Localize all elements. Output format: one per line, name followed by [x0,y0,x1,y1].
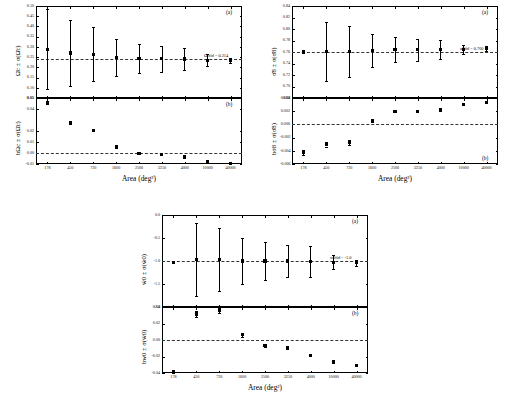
y-tick-mark [162,324,165,325]
omega_c_estimate-errorbar-cap [92,27,95,28]
x-tick-mark [418,6,419,9]
x-tick-label: 2500 [386,166,404,170]
Omega_c panel group: 0.500.450.400.350.300.250.200.150.100.05… [6,6,248,188]
x-axis-label: Area (deg²) [292,174,498,183]
w_0_estimate-errorbar-cap [309,277,312,278]
y-tick-mark [36,6,39,7]
omega_c_estimate-fiducial-annotation: Ωcfid = 0.214 [204,53,228,58]
omega_c_bias-ytick: 0.02 [24,129,34,133]
omega_c_estimate-ytick: 0.20 [24,65,34,69]
x-tick-mark [349,98,350,101]
x-tick-mark [326,6,327,9]
sigma_8_estimate-ytick: 0.84 [280,4,290,8]
y-tick-mark [292,87,295,88]
w_0 panel group: 0.0-0.5-1.0-1.5-2.0(a)ŵ0 ± σ(ŵ0)w0fid = … [130,215,374,397]
y-tick-mark [292,41,295,42]
x-tick-mark [418,162,419,165]
sigma_8_estimate-errorbar-cap [325,81,328,82]
x-tick-mark [70,6,71,9]
sigma_8_bias-errorbar-cap [348,145,351,146]
w_0_bias-errorbar-cap [195,317,198,318]
x-tick-mark [395,6,396,9]
sigma_8_bias-ytick: 0.000 [280,122,290,126]
y-tick-mark [36,164,39,165]
y-tick-mark [36,88,39,89]
w_0_bias-data-point [241,333,244,336]
w_0_estimate-errorbar-cap [332,269,335,270]
omega_c_estimate-panel-label: (a) [226,9,232,15]
x-tick-mark [173,215,174,218]
x-tick-mark [93,98,94,101]
y-tick-mark [240,142,243,143]
sigma_8_estimate-ytick: 0.70 [280,84,290,88]
sigma_8_estimate-errorbar-cap [348,26,351,27]
omega_c_estimate-ytick: 0.50 [24,4,34,8]
sigma_8_estimate-ytick: 0.78 [280,38,290,42]
x-tick-mark [326,98,327,101]
y-tick-mark [496,87,499,88]
y-tick-mark [162,238,165,239]
sigma_8_estimate-errorbar-cap [485,51,488,52]
y-tick-mark [240,16,243,17]
x-tick-mark [334,215,335,218]
y-tick-mark [240,131,243,132]
x-tick-label: 4000 [432,166,450,170]
sigma_8_estimate-data-point [439,48,442,51]
sigma_8_bias-panel-label: (b) [482,155,488,161]
w_0_estimate-errorbar-cap [241,238,244,239]
omega_c_bias-ytick: 0.00 [24,151,34,155]
omega_c_bias-panel-label: (b) [226,101,232,107]
w_0_estimate-ytick: 0.0 [150,213,160,217]
x-tick-mark [395,98,396,101]
w_0_bias-data-point [332,360,335,363]
sigma_8_estimate-ytick: 0.74 [280,61,290,65]
omega_c_estimate-data-point [92,53,95,56]
w_0_estimate-errorbar-cap [355,260,358,261]
y-tick-mark [366,357,369,358]
x-tick-label: 4000 [302,375,320,379]
sigma_8_bias-data-point [393,110,396,113]
x-tick-mark [372,98,373,101]
sigma_8_estimate-ytick: 0.80 [280,27,290,31]
x-tick-mark [116,6,117,9]
sigma_8_estimate-errorbar-cap [462,54,465,55]
x-tick-mark [372,6,373,9]
x-tick-label: 1600 [363,166,381,170]
sigma_8_estimate-data-point [348,50,351,53]
x-tick-mark [242,215,243,218]
omega_c_estimate-data-point [229,59,232,62]
w_0_estimate-data-point [195,258,198,261]
x-tick-mark [303,6,304,9]
sigma_8_estimate-errorbar-cap [348,77,351,78]
omega_c_estimate-errorbar-cap [183,48,186,49]
y-tick-mark [292,138,295,139]
x-tick-label: 40000 [222,166,240,170]
x-tick-mark [116,162,117,165]
sigma_8_bias-plot-area [292,98,498,164]
sigma_8_bias-reference-line [292,124,498,125]
x-tick-label: 178 [164,375,182,379]
y-tick-mark [496,98,499,99]
sigma_8_bias-data-point [485,101,488,104]
x-tick-mark [349,6,350,9]
y-tick-mark [36,98,39,99]
y-tick-mark [240,88,243,89]
w_0_bias-data-point [195,312,198,315]
x-tick-mark [464,98,465,101]
x-tick-mark [441,6,442,9]
omega_c_estimate-data-point [137,57,140,60]
omega_c_estimate-y-axis-label: Ω̂c ± σ(Ω̂c) [14,45,21,76]
y-tick-mark [240,6,243,7]
sigma_8_bias-y-axis-label: bσ8 ± σ(σ̂8) [270,123,277,155]
x-tick-mark [185,98,186,101]
omega_c_estimate-errorbar-cap [138,73,141,74]
x-tick-label: 2500 [256,375,274,379]
w_0_bias-ytick: 0.02 [150,321,160,325]
y-tick-mark [240,109,243,110]
sigma_8_estimate-errorbar-cap [416,61,419,62]
y-tick-mark [496,6,499,7]
omega_c_bias-data-point [69,121,72,124]
x-tick-mark [162,162,163,165]
y-tick-mark [292,75,295,76]
y-tick-mark [240,67,243,68]
